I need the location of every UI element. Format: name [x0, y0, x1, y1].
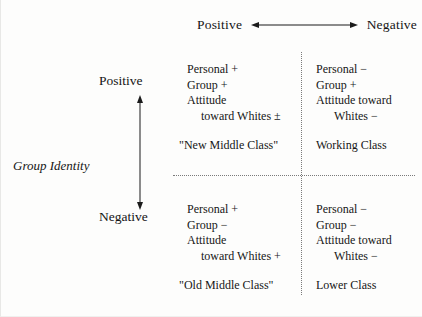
horizontal-axis-right-label: Negative: [367, 17, 417, 33]
vertical-axis-bottom-label: Negative: [63, 209, 205, 225]
typology-figure: Positive Negative Positive Negative Grou…: [0, 0, 422, 317]
horizontal-axis-left-label: Positive: [197, 17, 242, 33]
attribute-line: Group −: [187, 218, 297, 234]
attribute-line: Personal −: [316, 62, 420, 78]
quadrant-bottom-left: Personal + Group − Attitude toward White…: [187, 202, 297, 294]
attribute-line: Attitude: [187, 93, 297, 109]
attribute-line: Personal +: [187, 202, 297, 218]
attribute-line: Personal −: [316, 202, 420, 218]
arrow-head-right-icon: [350, 22, 358, 28]
vertical-axis-title: Group Identity: [13, 158, 89, 174]
horizontal-divider: [173, 175, 415, 176]
attribute-line: toward Whites +: [187, 249, 297, 265]
attribute-line: Attitude toward: [316, 93, 420, 109]
attribute-line: Attitude: [187, 233, 297, 249]
attribute-line: Group −: [316, 218, 420, 234]
attribute-line: Group +: [316, 78, 420, 94]
attribute-line: Attitude toward: [316, 233, 420, 249]
attribute-line: toward Whites ±: [187, 109, 297, 125]
vertical-axis-top-label: Positive: [63, 73, 205, 89]
double-headed-vertical-arrow-icon: [134, 95, 145, 210]
quadrant-class-name: "New Middle Class": [179, 138, 297, 154]
vertical-divider: [301, 52, 302, 295]
attribute-line: Personal +: [187, 62, 297, 78]
quadrant-top-right: Personal − Group + Attitude toward White…: [316, 62, 420, 154]
quadrant-class-name: Working Class: [316, 138, 420, 154]
arrow-shaft: [258, 25, 351, 26]
attribute-line: Group +: [187, 78, 297, 94]
horizontal-axis: Positive Negative: [197, 12, 417, 38]
quadrant-class-name: Lower Class: [316, 278, 420, 294]
attribute-line: Whites −: [316, 109, 420, 125]
attribute-line: Whites −: [316, 249, 420, 265]
quadrant-top-left: Personal + Group + Attitude toward White…: [187, 62, 297, 154]
arrow-shaft: [139, 102, 140, 203]
double-headed-horizontal-arrow-icon: [251, 19, 358, 31]
quadrant-class-name: "Old Middle Class": [179, 278, 297, 294]
quadrant-bottom-right: Personal − Group − Attitude toward White…: [316, 202, 420, 294]
